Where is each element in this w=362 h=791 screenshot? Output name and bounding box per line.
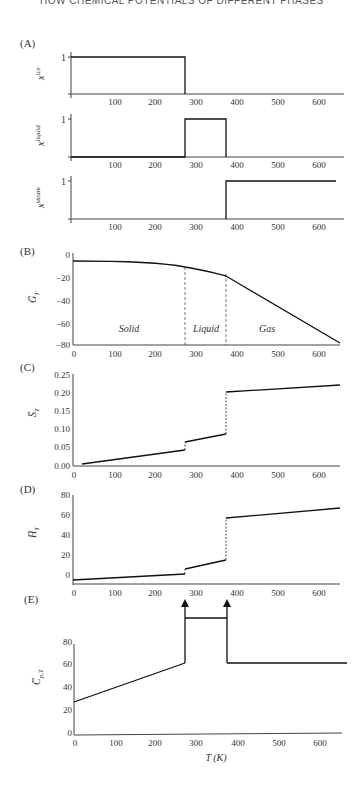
x-ticks-a2: 100200300 400500600 (108, 160, 326, 170)
entropy-solid-segment (82, 450, 185, 464)
x-ticks-a1: 100200300 400500600 (108, 97, 326, 107)
y-axis-label-steam: xsteam (34, 187, 46, 209)
y-axis-label-entropy: S̅T (27, 407, 41, 417)
svg-text:80: 80 (63, 637, 73, 647)
svg-text:40: 40 (63, 682, 73, 692)
y-ticks-b: 0−20−40 −60−80 (56, 250, 71, 350)
svg-text:600: 600 (312, 160, 326, 170)
entropy-gas-segment (226, 385, 340, 392)
entropy-liquid-segment (185, 434, 226, 442)
svg-text:300: 300 (189, 738, 203, 748)
panel-label-c: (C) (20, 361, 35, 374)
liquid-fraction-line (71, 119, 226, 157)
svg-text:400: 400 (230, 222, 244, 232)
y-axis-label-liquid: xliquid (34, 125, 46, 147)
svg-text:200: 200 (148, 470, 162, 480)
svg-text:400: 400 (230, 588, 244, 598)
svg-text:200: 200 (148, 160, 162, 170)
svg-text:500: 500 (271, 349, 285, 359)
region-label-liquid: Liquid (192, 323, 220, 334)
svg-text:600: 600 (312, 97, 326, 107)
svg-text:80: 80 (61, 490, 71, 500)
svg-text:100: 100 (108, 222, 122, 232)
svg-text:600: 600 (312, 470, 326, 480)
svg-text:300: 300 (189, 160, 203, 170)
panel-a-liquid-chart: 1 xliquid 100200300 400500600 (34, 114, 344, 170)
svg-text:200: 200 (148, 349, 162, 359)
svg-text:−40: −40 (56, 296, 71, 306)
y-tick: 1 (61, 176, 66, 187)
svg-text:300: 300 (189, 222, 203, 232)
svg-text:300: 300 (189, 470, 203, 480)
y-axis-label-ice: xice (34, 67, 46, 81)
panel-b-gibbs-chart: (B) 0−20−40 −60−80 G̅T Solid Liquid Gas … (20, 245, 340, 359)
svg-text:600: 600 (312, 349, 326, 359)
cp-solid-segment (74, 663, 185, 702)
y-axis-label-heat-capacity: C̅p,T (31, 668, 45, 685)
svg-text:40: 40 (61, 530, 71, 540)
enthalpy-gas-segment (226, 508, 340, 518)
svg-text:−80: −80 (56, 340, 71, 350)
y-ticks-c: 0.250.200.15 0.100.050.00 (54, 370, 70, 471)
svg-text:100: 100 (108, 588, 122, 598)
svg-text:0: 0 (72, 349, 77, 359)
svg-text:−60: −60 (56, 319, 71, 329)
svg-text:300: 300 (189, 588, 203, 598)
svg-text:60: 60 (63, 659, 73, 669)
svg-text:400: 400 (230, 160, 244, 170)
svg-text:200: 200 (148, 738, 162, 748)
panel-label-b: (B) (20, 245, 35, 258)
svg-text:0: 0 (66, 570, 71, 580)
svg-text:100: 100 (108, 97, 122, 107)
x-ticks-b: 0100200300 400500600 (72, 349, 327, 359)
svg-text:400: 400 (230, 349, 244, 359)
svg-text:0.10: 0.10 (54, 424, 70, 434)
svg-text:500: 500 (271, 470, 285, 480)
svg-text:400: 400 (230, 470, 244, 480)
svg-text:20: 20 (61, 550, 71, 560)
panel-label-e: (E) (24, 593, 38, 606)
svg-text:0: 0 (68, 728, 73, 738)
panel-c-entropy-chart: (C) 0.250.200.15 0.100.050.00 S̅T 010020… (20, 361, 340, 480)
panel-label-a: (A) (20, 37, 36, 50)
svg-text:500: 500 (272, 738, 286, 748)
svg-text:400: 400 (231, 738, 245, 748)
svg-text:60: 60 (61, 510, 71, 520)
svg-text:300: 300 (189, 97, 203, 107)
svg-text:0: 0 (66, 250, 71, 260)
svg-text:0.15: 0.15 (54, 406, 70, 416)
svg-text:500: 500 (271, 97, 285, 107)
svg-text:600: 600 (312, 588, 326, 598)
svg-text:0.25: 0.25 (54, 370, 70, 380)
steam-fraction-line (226, 181, 336, 219)
svg-text:0: 0 (72, 588, 77, 598)
panel-a-steam-chart: 1 xsteam 100200300 400500600 (34, 176, 344, 232)
svg-text:100: 100 (109, 738, 123, 748)
svg-text:100: 100 (108, 470, 122, 480)
svg-text:500: 500 (271, 160, 285, 170)
ice-fraction-line (71, 57, 185, 94)
svg-text:0: 0 (72, 470, 77, 480)
y-ticks-d: 806040 200 (61, 490, 71, 580)
svg-text:600: 600 (312, 222, 326, 232)
enthalpy-liquid-segment (185, 560, 226, 569)
y-tick: 1 (61, 52, 66, 63)
svg-text:500: 500 (271, 222, 285, 232)
svg-text:500: 500 (271, 588, 285, 598)
x-ticks-c: 0100200300 400500600 (72, 470, 327, 480)
x-ticks-a3: 100200300 400500600 (108, 222, 326, 232)
region-label-gas: Gas (259, 323, 275, 334)
svg-text:200: 200 (148, 222, 162, 232)
x-ticks-d: 0100200300 400500600 (72, 588, 327, 598)
svg-text:0.00: 0.00 (54, 461, 70, 471)
svg-text:20: 20 (63, 705, 73, 715)
figure: (A) 1 xice 100200300 400500600 1 xliquid… (0, 0, 362, 791)
svg-text:−20: −20 (56, 273, 71, 283)
panel-d-enthalpy-chart: (D) 806040 200 H̅T 0100200300 400500600 (20, 483, 340, 598)
svg-text:300: 300 (189, 349, 203, 359)
panel-a-ice-chart: (A) 1 xice 100200300 400500600 (20, 37, 344, 107)
y-ticks-e: 806040 200 (63, 637, 73, 738)
svg-text:100: 100 (108, 349, 122, 359)
x-axis-title: T (K) (205, 752, 227, 764)
x-ticks-e: 0100200300 400500600 (73, 738, 328, 748)
